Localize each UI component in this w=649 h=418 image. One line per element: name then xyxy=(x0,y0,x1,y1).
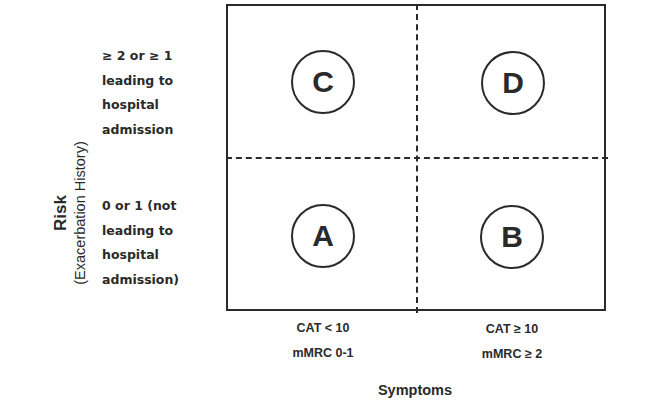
group-a-circle: A xyxy=(291,204,355,268)
high-risk-label: ≥ 2 or ≥ 1 leading to hospital admission xyxy=(102,44,173,142)
low-symptoms-label: CAT < 10 mMRC 0-1 xyxy=(253,316,393,366)
label-line: leading to xyxy=(102,219,179,244)
label-line: admission xyxy=(102,118,173,143)
group-b-circle: B xyxy=(480,205,544,269)
risk-subtitle: (Exacerbation History) xyxy=(71,93,89,333)
y-axis-title: Risk (Exacerbation History) xyxy=(51,93,89,333)
label-line: ≥ 2 or ≥ 1 xyxy=(102,44,173,69)
cat-threshold: CAT < 10 xyxy=(253,316,393,341)
group-c-circle: C xyxy=(291,50,355,114)
high-symptoms-label: CAT ≥ 10 mMRC ≥ 2 xyxy=(442,317,582,367)
group-d-circle: D xyxy=(481,51,545,115)
horizontal-divider xyxy=(226,157,608,159)
label-line: 0 or 1 (not xyxy=(102,194,179,219)
label-line: leading to xyxy=(102,69,173,94)
label-line: hospital xyxy=(102,243,179,268)
mmrc-threshold: mMRC ≥ 2 xyxy=(442,342,582,367)
x-axis-title: Symptoms xyxy=(340,382,490,398)
risk-title: Risk xyxy=(51,93,71,333)
label-line: hospital xyxy=(102,93,173,118)
label-line: admission) xyxy=(102,268,179,293)
low-risk-label: 0 or 1 (not leading to hospital admissio… xyxy=(102,194,179,292)
mmrc-threshold: mMRC 0-1 xyxy=(253,341,393,366)
cat-threshold: CAT ≥ 10 xyxy=(442,317,582,342)
